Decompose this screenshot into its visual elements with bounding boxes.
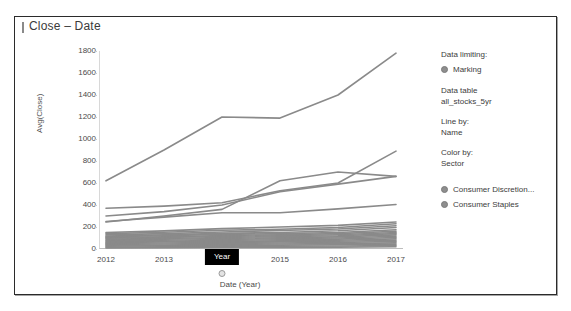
y-axis-tick-mark: [94, 51, 97, 52]
marking-dot-icon: [441, 66, 448, 73]
y-axis-ticks: 020040060080010001200140016001800: [42, 37, 96, 296]
panel-titlebar: Close – Date: [15, 17, 556, 37]
line-series[interactable]: [106, 53, 396, 181]
legend-data-limiting-group: Data limiting: Marking: [441, 49, 487, 75]
y-axis-tick-label: 1200: [50, 113, 96, 121]
x-axis-tick-label: 2015: [271, 255, 289, 264]
legend-item-label: Consumer Staples: [453, 199, 519, 210]
line-series[interactable]: [106, 247, 396, 248]
legend-panel: Data limiting: Marking Data table all_st…: [423, 37, 558, 296]
x-axis-tick-label: 2017: [387, 255, 405, 264]
color-by-label: Color by:: [441, 147, 473, 158]
legend-line-by-group: Line by: Name: [441, 116, 469, 138]
legend-data-table-group: Data table all_stocks_5yr: [441, 85, 492, 107]
y-axis-tick-mark: [94, 249, 97, 250]
y-axis-tick-label: 200: [50, 223, 96, 231]
y-axis-tick-label: 1000: [50, 135, 96, 143]
y-axis-tick-mark: [94, 205, 97, 206]
legend-color-dot-icon: [441, 186, 448, 193]
marking-row[interactable]: Marking: [441, 64, 487, 75]
chart-area: Avg(Close) 02004006008001000120014001600…: [15, 37, 415, 296]
data-table-label: Data table: [441, 85, 492, 96]
axis-selector-handle-icon[interactable]: [219, 270, 226, 279]
page-title: Close – Date: [29, 19, 101, 33]
y-axis-tick-label: 400: [50, 201, 96, 209]
plot-area[interactable]: [99, 51, 403, 249]
y-axis-tick-label: 600: [50, 179, 96, 187]
color-by-value[interactable]: Sector: [441, 158, 473, 169]
y-axis-tick-label: 800: [50, 157, 96, 165]
legend-item[interactable]: Consumer Staples: [441, 199, 534, 210]
legend-item-label: Consumer Discretion...: [453, 184, 534, 195]
year-tooltip[interactable]: Year: [205, 249, 239, 265]
y-axis-tick-mark: [94, 139, 97, 140]
y-axis-tick-label: 0: [50, 245, 96, 253]
legend-color-dot-icon: [441, 201, 448, 208]
y-axis-tick-mark: [94, 161, 97, 162]
data-table-value[interactable]: all_stocks_5yr: [441, 96, 492, 107]
y-axis-tick-label: 1800: [50, 47, 96, 55]
legend-series-list: Consumer Discretion...Consumer Staples: [441, 184, 534, 210]
y-axis-tick-mark: [94, 73, 97, 74]
title-accent-bar: [22, 22, 24, 33]
x-axis-tick-label: 2016: [329, 255, 347, 264]
y-axis-tick-mark: [94, 227, 97, 228]
y-axis-tick-mark: [94, 117, 97, 118]
marking-label: Marking: [453, 64, 481, 75]
line-series-svg: [99, 51, 403, 249]
visualization-panel: Close – Date Avg(Close) 0200400600800100…: [14, 16, 557, 295]
line-by-value[interactable]: Name: [441, 127, 469, 138]
line-series[interactable]: [106, 151, 396, 208]
y-axis-tick-mark: [94, 183, 97, 184]
x-axis-tick-label: 2013: [155, 255, 173, 264]
screenshot-root: Close – Date Avg(Close) 0200400600800100…: [0, 0, 571, 311]
data-limiting-label: Data limiting:: [441, 49, 487, 60]
legend-color-by-group: Color by: Sector: [441, 147, 473, 169]
y-axis-tick-mark: [94, 95, 97, 96]
y-axis-tick-label: 1600: [50, 69, 96, 77]
y-axis-tick-label: 1400: [50, 91, 96, 99]
x-axis-tick-label: 2012: [97, 255, 115, 264]
x-axis-title: Date (Year): [220, 280, 261, 289]
line-by-label: Line by:: [441, 116, 469, 127]
legend-item[interactable]: Consumer Discretion...: [441, 184, 534, 195]
